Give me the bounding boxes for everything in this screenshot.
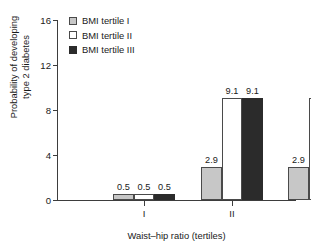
legend-item: BMI tertile III: [69, 43, 135, 56]
x-axis-line: [57, 200, 296, 201]
bar: [288, 167, 309, 200]
y-tick-label: 0: [46, 194, 51, 207]
bar-value-label: 9.1: [226, 86, 239, 97]
y-tick-mark: [53, 110, 58, 111]
x-tick-label: II: [229, 208, 234, 220]
legend-label: BMI tertile III: [82, 44, 135, 55]
bar: [113, 194, 134, 200]
legend-swatch-icon: [69, 46, 77, 54]
bar-value-label: 0.5: [138, 182, 151, 193]
legend-item: BMI tertile II: [69, 29, 135, 42]
x-tick-mark: [232, 201, 233, 206]
y-axis-title: Probability of developing type 2 diabete…: [9, 0, 39, 147]
legend-item: BMI tertile I: [69, 14, 135, 27]
bar-value-label: 9.1: [246, 86, 259, 97]
y-tick-label: 4: [46, 149, 51, 162]
bar: [134, 194, 155, 200]
bar-value-label: 0.5: [158, 182, 171, 193]
legend-label: BMI tertile I: [82, 15, 129, 26]
y-tick-label: 8: [46, 104, 51, 117]
legend-swatch-icon: [69, 17, 77, 25]
bar-value-label: 2.9: [292, 155, 305, 166]
legend-swatch-icon: [69, 31, 77, 39]
x-tick-mark: [144, 201, 145, 206]
bar: [309, 98, 311, 200]
bar-chart: Probability of developing type 2 diabete…: [0, 0, 311, 251]
y-axis-line: [57, 20, 58, 201]
y-tick-mark: [53, 20, 58, 21]
bar: [222, 98, 243, 200]
y-tick-label: 12: [40, 59, 51, 72]
bar: [201, 167, 222, 200]
x-axis-title: Waist–hip ratio (tertiles): [57, 230, 296, 241]
bar: [154, 194, 175, 200]
x-tick-label: I: [143, 208, 146, 220]
bar-value-label: 2.9: [205, 155, 218, 166]
bar-value-label: 0.5: [117, 182, 130, 193]
y-tick-mark: [53, 155, 58, 156]
y-tick-label: 16: [40, 14, 51, 27]
legend: BMI tertile IBMI tertile IIBMI tertile I…: [69, 14, 135, 58]
y-tick-mark: [53, 200, 58, 201]
bar: [242, 98, 263, 200]
y-tick-mark: [53, 65, 58, 66]
legend-label: BMI tertile II: [82, 30, 132, 41]
